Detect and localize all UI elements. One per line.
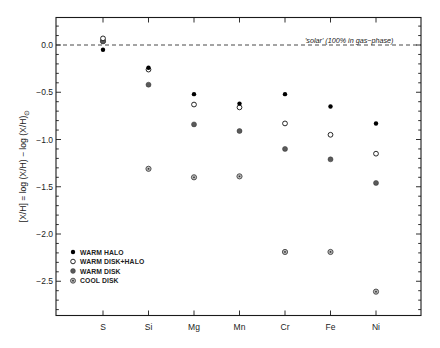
y-tick-label: −2.5 [36, 276, 53, 286]
data-point-warm-disk-halo [192, 102, 197, 107]
data-point-cool-disk [328, 249, 333, 254]
y-tick-label: −0.5 [36, 87, 53, 97]
x-category-label: Mn [234, 322, 246, 332]
data-point-cool-disk [282, 249, 287, 254]
legend-label: WARM DISK [80, 268, 121, 275]
legend-item-warm-disk-halo: WARM DISK+HALO [71, 258, 145, 265]
data-point-warm-disk [146, 82, 151, 87]
legend-label: WARM HALO [80, 249, 124, 256]
y-axis-label-text: [X/H] = log (X/H) − log (X/H) [18, 116, 28, 223]
y-tick-label: −1.0 [36, 135, 53, 145]
data-point-warm-disk [192, 122, 197, 127]
x-category-label: Si [145, 322, 153, 332]
data-point-warm-disk-halo [283, 121, 288, 126]
y-tick-label: −2.0 [36, 229, 53, 239]
y-tick-label: 0.0 [41, 40, 53, 50]
data-point-warm-disk-halo [101, 36, 106, 41]
open-circle-marker-icon [71, 259, 76, 264]
abundance-chart: 'solar' (100% in gas−phase) 0.0 −0.5 −1.… [0, 0, 440, 348]
data-point-warm-disk-halo [374, 151, 379, 156]
data-point-warm-disk [328, 157, 333, 162]
solar-subscript: ⊙ [23, 110, 30, 116]
chart-background [0, 0, 440, 348]
y-tick-label: −1.5 [36, 182, 53, 192]
x-category-label: Cr [281, 322, 290, 332]
legend-label: WARM DISK+HALO [80, 258, 144, 265]
data-point-cool-disk [146, 166, 151, 171]
data-point-warm-halo [374, 121, 378, 125]
solar-reference-label: 'solar' (100% in gas−phase) [305, 36, 393, 45]
data-point-warm-disk-halo [328, 132, 333, 137]
x-category-label: Ni [372, 322, 380, 332]
data-point-warm-halo [328, 104, 332, 108]
x-category-label: Mg [188, 322, 200, 332]
data-point-warm-halo [192, 92, 196, 96]
svg-text:[X/H] = log (X/H) − log (X/H)⊙: [X/H] = log (X/H) − log (X/H)⊙ [18, 110, 30, 223]
filled-circle-marker-icon [71, 250, 75, 254]
data-point-warm-halo [283, 92, 287, 96]
data-point-cool-disk [237, 174, 242, 179]
data-point-warm-halo [101, 48, 105, 52]
data-point-warm-disk [283, 146, 288, 151]
data-point-warm-halo [237, 101, 241, 105]
dotted-circle-center-icon [72, 280, 74, 282]
legend-label: COOL DISK [80, 277, 119, 284]
x-category-label: Fe [326, 322, 336, 332]
data-point-warm-disk [374, 180, 379, 185]
x-category-label: S [100, 322, 106, 332]
data-point-cool-disk [373, 289, 378, 294]
data-point-warm-halo [146, 65, 150, 69]
data-point-cool-disk [191, 175, 196, 180]
y-axis-label: [X/H] = log (X/H) − log (X/H)⊙ [18, 110, 30, 223]
data-point-warm-disk [237, 128, 242, 133]
gray-filled-circle-marker-icon [71, 269, 76, 274]
